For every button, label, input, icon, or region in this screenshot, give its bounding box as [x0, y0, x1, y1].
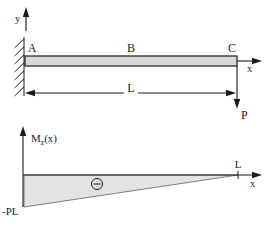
beam-body: [25, 56, 237, 66]
wall-hatching-icon: [15, 39, 25, 96]
moment-axis-label-main: M: [31, 132, 41, 144]
wall-support: [15, 37, 25, 96]
dimension-left-arrowhead-icon: [25, 90, 35, 96]
load-label: P: [241, 108, 248, 122]
y-axis-arrow: [23, 7, 29, 31]
load-arrowhead-icon: [234, 99, 240, 109]
cantilever-beam-figure: y A B C: [0, 0, 273, 226]
length-tick-label: L: [235, 158, 242, 170]
moment-diagram: Mz(x) x L -PL: [2, 126, 262, 217]
length-dimension: L: [25, 81, 236, 96]
length-label: L: [127, 81, 134, 95]
y-axis-arrowhead-icon: [23, 7, 29, 17]
moment-axis-arrowhead-icon: [20, 126, 26, 136]
beam-diagram: y A B C: [15, 7, 263, 122]
load-arrow: [234, 66, 240, 109]
x-axis-label: x: [247, 63, 253, 74]
moment-area: [24, 175, 238, 207]
moment-axis-label-argument: (x): [44, 132, 57, 145]
point-c-label: C: [228, 41, 236, 55]
y-axis-label: y: [15, 13, 21, 24]
x-axis-arrowhead-icon: [252, 58, 262, 64]
point-b-label: B: [127, 41, 135, 55]
moment-x-axis-label: x: [250, 178, 256, 189]
dimension-right-arrowhead-icon: [226, 90, 236, 96]
figure-canvas: y A B C: [0, 0, 273, 226]
moment-axis-label: Mz(x): [31, 132, 57, 147]
min-value-label: -PL: [2, 205, 19, 217]
point-a-label: A: [28, 41, 37, 55]
